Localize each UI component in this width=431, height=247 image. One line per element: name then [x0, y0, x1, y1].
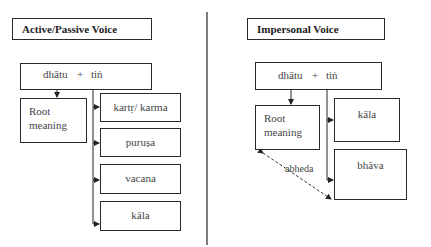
active-passive-voice-title: Active/Passive Voice [12, 18, 152, 40]
branch-bhava: bhāva [334, 149, 407, 200]
branch-kala-right: kāla [334, 98, 400, 142]
branch-vacana: vacana [100, 164, 181, 194]
right-dhatu-label: dhātu [278, 69, 302, 81]
left-root-line1: Root [29, 105, 50, 117]
left-dhatu-tin-box: dhātu + tiṅ [20, 63, 152, 90]
right-root-meaning-box: Root meaning [255, 105, 320, 150]
left-root-meaning-box: Root meaning [20, 98, 87, 143]
branch-purusa: puruṣa [100, 128, 181, 157]
branch-kala-left: kāla [100, 201, 181, 231]
left-root-line2: meaning [29, 119, 67, 131]
abheda-relation-label: abheda [285, 163, 313, 174]
right-root-line2: meaning [264, 126, 302, 138]
right-dhatu-tin-box: dhātu + tiṅ [255, 62, 382, 90]
right-plus-label: + [312, 69, 318, 81]
impersonal-voice-title: Impersonal Voice [247, 18, 385, 40]
left-tin-label: tiṅ [91, 68, 103, 80]
right-tin-label: tiṅ [326, 69, 338, 81]
left-dhatu-label: dhātu [43, 68, 67, 80]
right-root-line1: Root [264, 112, 285, 124]
left-plus-label: + [77, 68, 83, 80]
branch-kartr-karma: kartṛ/ karma [100, 93, 181, 122]
